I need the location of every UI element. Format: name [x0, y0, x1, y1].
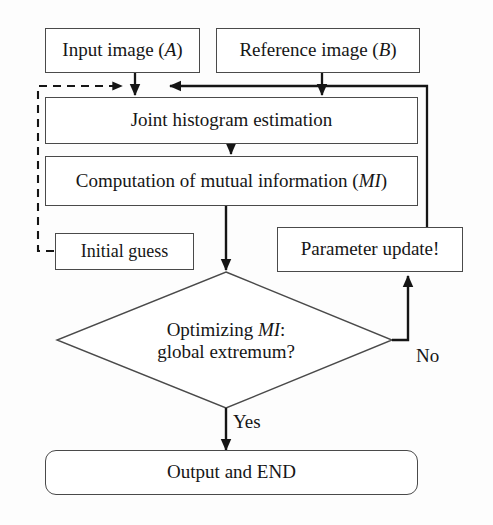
node-parameter-update-label: Parameter update!	[301, 238, 440, 260]
node-reference-image-label: Reference image (B)	[239, 39, 396, 61]
node-reference-image[interactable]: Reference image (B)	[216, 28, 420, 73]
node-joint-histogram[interactable]: Joint histogram estimation	[45, 97, 418, 144]
node-decision-line2: global extremum?	[157, 341, 295, 363]
flowchart-canvas: Input image (A) Reference image (B) Join…	[0, 0, 493, 525]
node-parameter-update[interactable]: Parameter update!	[277, 227, 463, 272]
node-initial-guess-label: Initial guess	[81, 241, 169, 262]
node-computation-mi[interactable]: Computation of mutual information (MI)	[45, 156, 418, 206]
node-input-image-label: Input image (A)	[62, 39, 182, 61]
node-output-end-label: Output and END	[167, 461, 296, 483]
node-joint-histogram-label: Joint histogram estimation	[131, 109, 333, 131]
edge-decision-no-to-parameter-update	[392, 276, 408, 340]
edge-label-yes: Yes	[233, 411, 261, 433]
node-decision-line1: Optimizing MI:	[167, 319, 286, 341]
node-initial-guess[interactable]: Initial guess	[55, 233, 194, 270]
node-output-end[interactable]: Output and END	[45, 450, 418, 495]
node-computation-mi-label: Computation of mutual information (MI)	[76, 170, 387, 192]
node-input-image[interactable]: Input image (A)	[45, 28, 200, 73]
node-decision[interactable]: Optimizing MI: global extremum?	[126, 312, 326, 370]
edge-label-no: No	[416, 345, 439, 367]
